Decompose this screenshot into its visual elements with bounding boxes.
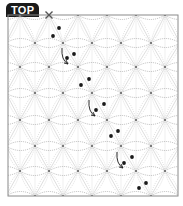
stitch-curve — [136, 171, 165, 176]
grid-line — [180, 43, 183, 67]
stitch-curve — [49, 120, 78, 125]
stitch-curve — [0, 167, 20, 172]
node-mark — [150, 92, 152, 94]
stitch-curve — [0, 171, 6, 196]
stitch-curve — [151, 43, 180, 48]
grid-line — [49, 120, 63, 146]
stitch-curve — [0, 11, 20, 16]
node-mark — [106, 170, 108, 172]
stitch-curve — [6, 93, 35, 98]
node-mark — [19, 119, 21, 121]
stitch-curve — [180, 93, 183, 120]
stitch-curve — [151, 146, 180, 151]
node-mark — [19, 170, 21, 172]
stitch-curve — [180, 120, 183, 146]
grid-line — [180, 93, 183, 120]
stitch-curve — [151, 192, 180, 197]
grid-line — [136, 67, 151, 93]
stitch-curve — [78, 167, 107, 172]
stitch-curve — [49, 11, 78, 16]
node-mark — [77, 66, 79, 68]
stitch-curve — [165, 11, 183, 16]
stitch-curve — [63, 192, 92, 197]
node-mark — [164, 170, 166, 172]
stitch-curve — [49, 171, 78, 176]
node-mark — [106, 66, 108, 68]
grid-line — [49, 43, 63, 67]
grid-line — [35, 171, 49, 196]
stitch-dot — [116, 129, 120, 133]
node-mark — [135, 170, 137, 172]
stitch-curve — [0, 171, 20, 176]
stitch-curve — [0, 171, 6, 196]
stitch-curve — [180, 43, 183, 67]
stitch-curve — [20, 116, 49, 121]
stitch-curve — [6, 43, 35, 48]
stitch-curve — [0, 15, 6, 43]
stitch-curve — [0, 93, 6, 120]
stitch-curve — [180, 67, 183, 93]
stitch-curve — [78, 67, 107, 72]
stitch-curve — [6, 146, 35, 151]
grid-group — [0, 11, 183, 201]
grid-line — [20, 120, 35, 146]
stitch-curve — [78, 11, 107, 16]
stitch-curve — [0, 15, 6, 43]
node-mark — [34, 42, 36, 44]
stitch-curve — [0, 146, 6, 171]
stitch-curve — [165, 167, 183, 172]
stitch-curve — [0, 120, 6, 146]
grid-line — [121, 67, 136, 93]
node-mark — [135, 66, 137, 68]
stitch-curve — [6, 89, 35, 94]
grid-line — [180, 146, 183, 171]
grid-line — [78, 120, 92, 146]
stitch-curve — [92, 43, 121, 48]
grid-line — [78, 146, 92, 171]
stitch-curve — [165, 15, 183, 20]
stitch-dot — [122, 161, 126, 165]
grid-line — [63, 67, 78, 93]
grid-line — [92, 120, 107, 146]
stitch-dot — [130, 155, 134, 159]
stitch-curve — [107, 116, 136, 121]
grid-line — [151, 171, 165, 196]
stitch-curve — [0, 43, 6, 67]
stitch-curve — [180, 93, 183, 120]
grid-line — [0, 93, 6, 120]
stitch-curve — [78, 120, 107, 125]
stitch-curve — [20, 171, 49, 176]
grid-line — [0, 171, 6, 196]
stitch-curve — [78, 171, 107, 176]
grid-line — [20, 15, 35, 43]
stitch-curve — [78, 116, 107, 121]
stitch-curve — [20, 120, 49, 125]
node-mark — [164, 119, 166, 121]
stitch-curve — [136, 15, 165, 20]
grid-line — [35, 67, 49, 93]
stitch-curve — [78, 15, 107, 20]
node-mark — [135, 119, 137, 121]
node-mark — [77, 170, 79, 172]
stitch-curve — [180, 120, 183, 146]
stitch-curve — [0, 63, 20, 68]
stitch-curve — [63, 146, 92, 151]
node-mark — [62, 92, 64, 94]
node-mark — [164, 66, 166, 68]
grid-line — [121, 15, 136, 43]
grid-line — [180, 171, 183, 196]
node-mark — [62, 145, 64, 147]
stitch-curve — [180, 43, 183, 67]
stitch-curve — [136, 11, 165, 16]
stitch-curve — [165, 171, 183, 176]
stitch-curve — [35, 192, 63, 197]
grid-line — [63, 120, 78, 146]
stitch-curve — [107, 171, 136, 176]
grid-line — [49, 93, 63, 120]
grid-line — [49, 171, 63, 196]
node-mark — [120, 145, 122, 147]
grid-line — [35, 146, 49, 171]
stitch-curve — [107, 120, 136, 125]
stitch-curve — [180, 67, 183, 93]
stitch-dot — [109, 134, 113, 138]
